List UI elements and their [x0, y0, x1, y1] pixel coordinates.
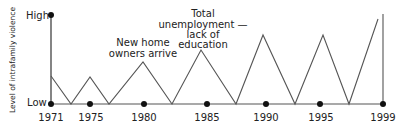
x-label-1990: 1990	[253, 112, 278, 123]
annotation-2-line-4: education	[178, 39, 228, 50]
tick-dot-1971	[48, 101, 54, 107]
annotation-new-home-owners: New home owners arrive	[109, 37, 177, 59]
y-axis-title: Level of intrafamily violence	[8, 7, 17, 113]
tick-dot-1985	[204, 101, 210, 107]
tick-dot-1980	[141, 101, 147, 107]
tick-dot-1975	[87, 101, 93, 107]
x-label-1980: 1980	[131, 112, 156, 123]
y-high-dot	[48, 12, 54, 18]
y-label-low: Low	[27, 97, 47, 108]
tick-dot-1990	[263, 101, 269, 107]
violence-timeline-chart: Level of intrafamily violence High Low 1…	[0, 0, 403, 127]
tick-dot-1999	[380, 101, 386, 107]
annotation-2-line-1: Total	[190, 8, 214, 19]
annotation-1-line-1: New home	[116, 37, 169, 48]
tick-dot-1995	[317, 101, 323, 107]
annotation-1-line-2: owners arrive	[109, 48, 177, 59]
y-label-high: High	[26, 10, 49, 21]
x-label-1985: 1985	[194, 112, 219, 123]
x-label-1999: 1999	[370, 112, 395, 123]
annotation-total-unemployment: Total unemployment — lack of education	[158, 8, 247, 50]
x-label-1971: 1971	[38, 112, 63, 123]
x-label-1995: 1995	[308, 112, 333, 123]
x-label-1975: 1975	[78, 112, 103, 123]
